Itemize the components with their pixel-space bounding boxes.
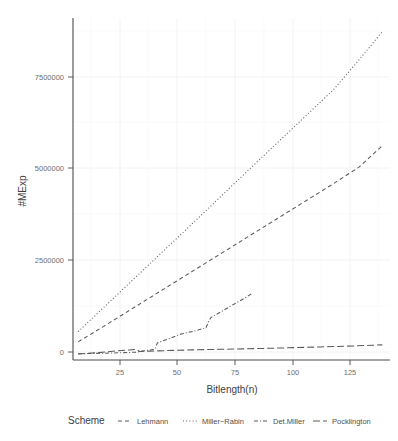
- y-axis-title: #MExp: [17, 175, 28, 207]
- legend-label-pocklington: Pocklington: [332, 417, 371, 426]
- y-tick-label-7500000: 7500000: [35, 73, 64, 82]
- chart-background: [0, 0, 398, 441]
- y-tick-label-5000000: 5000000: [35, 164, 64, 173]
- chart-container: 7500000 5000000 2500000 0 25 50 75 100 1…: [0, 0, 398, 441]
- x-tick-label-75: 75: [231, 368, 239, 377]
- legend-label-lehmann: Lehmann: [137, 417, 168, 426]
- line-chart-svg: 7500000 5000000 2500000 0 25 50 75 100 1…: [0, 0, 398, 441]
- x-tick-label-25: 25: [116, 368, 124, 377]
- legend-title: Scheme: [68, 415, 105, 426]
- x-tick-label-50: 50: [173, 368, 181, 377]
- y-tick-label-0: 0: [60, 348, 64, 357]
- y-tick-label-2500000: 2500000: [35, 256, 64, 265]
- x-tick-label-125: 125: [344, 368, 357, 377]
- x-tick-label-100: 100: [287, 368, 300, 377]
- x-axis-title: Bitlength(n): [206, 384, 257, 395]
- legend-label-det-miller: Det.Miller: [273, 417, 305, 426]
- legend-label-miller-rabin: Miller−Rabin: [202, 417, 244, 426]
